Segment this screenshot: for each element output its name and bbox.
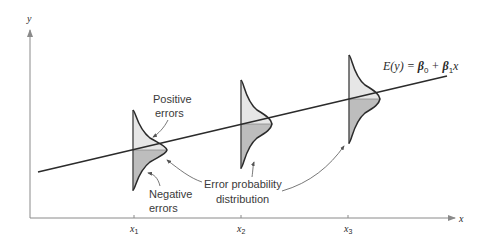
regression-diagram: y x x1 x2 x3 E(y) = β0 + β1x P [0, 0, 489, 245]
x-axis-label: x [458, 213, 464, 224]
tick-label-x2: x2 [236, 223, 245, 235]
svg-text:Positive: Positive [153, 93, 192, 105]
svg-text:x3: x3 [343, 223, 352, 235]
tick-label-x1: x1 [129, 223, 138, 235]
error-distribution-3 [349, 55, 380, 144]
svg-text:Error probability: Error probability [204, 178, 282, 190]
svg-text:errors: errors [155, 107, 184, 119]
error-distribution-2 [241, 80, 272, 169]
regression-equation: E(y) = β0 + β1x [382, 59, 459, 75]
svg-text:Negative: Negative [149, 188, 192, 200]
positive-errors-label: Positive errors [153, 93, 192, 137]
negative-errors-label: Negative errors [148, 173, 192, 214]
svg-text:x2: x2 [236, 223, 245, 235]
error-distribution-label: Error probability distribution [167, 146, 344, 205]
svg-text:x1: x1 [129, 223, 138, 235]
y-axis-label: y [26, 13, 32, 24]
tick-label-x3: x3 [343, 223, 352, 235]
error-distribution-1 [133, 110, 167, 191]
svg-text:errors: errors [149, 202, 178, 214]
svg-text:distribution: distribution [216, 193, 269, 205]
